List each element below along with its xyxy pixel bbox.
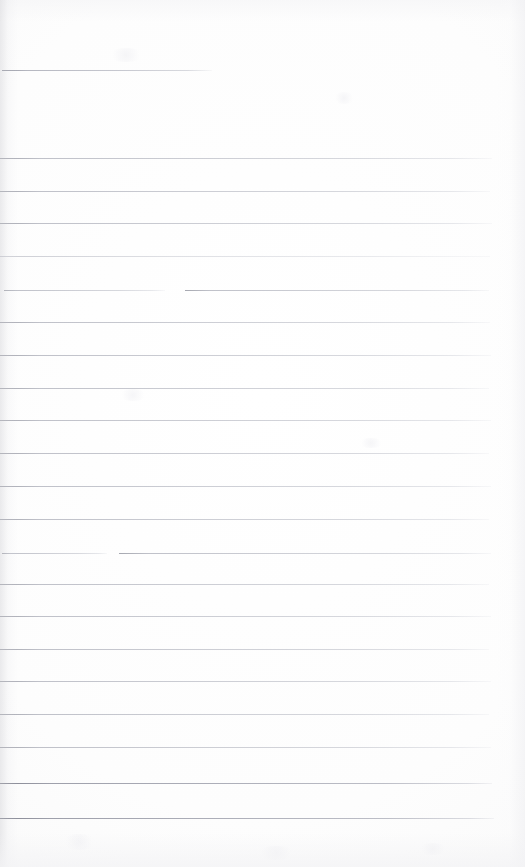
scanned-page: A scanned blank sheet of lined notebook …	[0, 0, 525, 867]
paper-background	[0, 0, 525, 867]
